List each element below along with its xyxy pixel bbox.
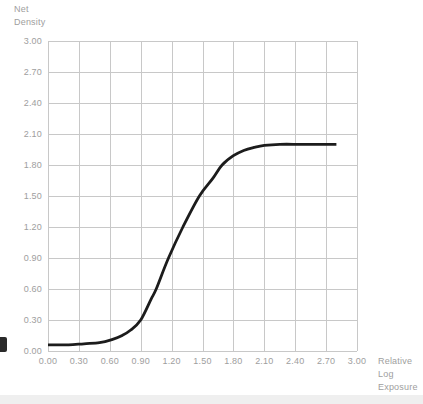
characteristic-curve-figure: Net Density Relative Log Exposure 0.000.… bbox=[0, 0, 423, 404]
page-edge-shadow bbox=[0, 395, 423, 404]
characteristic-curve bbox=[48, 144, 336, 345]
y-axis-title: Net Density bbox=[14, 3, 45, 29]
chart-plot-area bbox=[0, 0, 423, 404]
grid-lines bbox=[48, 41, 358, 352]
scan-artifact bbox=[0, 337, 7, 352]
x-axis-title: Relative Log Exposure bbox=[378, 355, 418, 394]
